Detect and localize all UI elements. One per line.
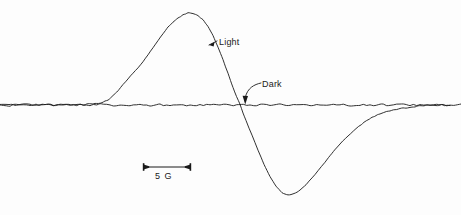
scale-bar-label: 5 G	[155, 172, 173, 181]
light-label-leader-arrow	[209, 41, 217, 47]
dark-label-leader-arrow	[243, 83, 261, 105]
dark-series-label: Dark	[262, 80, 282, 89]
epr-spectrum-figure: Light Dark 5 G	[0, 0, 461, 215]
light-series-label: Light	[219, 38, 240, 47]
scale-bar-arrowhead-right	[185, 164, 191, 169]
scale-bar-arrowhead-left	[144, 164, 150, 169]
spectrum-plot-area	[0, 0, 461, 215]
scale-bar	[143, 163, 191, 171]
